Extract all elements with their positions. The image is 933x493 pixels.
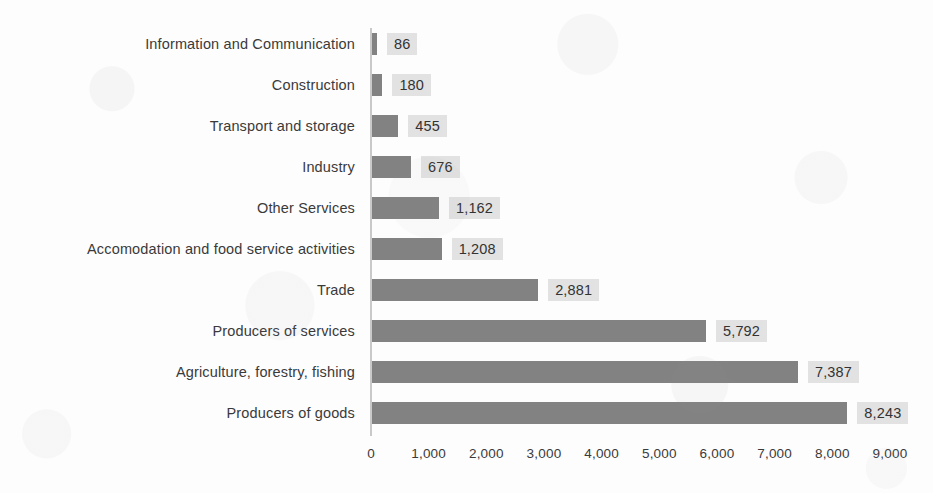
bar-value-label: 86	[387, 33, 417, 55]
bar	[372, 115, 398, 137]
category-label: Agriculture, forestry, fishing	[176, 364, 355, 380]
bar-row: Trade2,881	[0, 279, 933, 301]
category-label: Industry	[302, 159, 355, 175]
bar	[372, 156, 411, 178]
x-axis-tick-label: 4,000	[584, 446, 619, 461]
bar	[372, 279, 538, 301]
category-label: Information and Communication	[145, 36, 355, 52]
bar	[372, 197, 439, 219]
x-axis-tick-label: 8,000	[815, 446, 850, 461]
bar	[372, 320, 706, 342]
bar	[372, 402, 847, 424]
bar-row: Producers of services5,792	[0, 320, 933, 342]
bar-row: Other Services1,162	[0, 197, 933, 219]
bar-row: Agriculture, forestry, fishing7,387	[0, 361, 933, 383]
bar-value-label: 1,162	[449, 197, 500, 219]
bar	[372, 74, 382, 96]
category-label: Producers of goods	[227, 405, 355, 421]
category-label: Accomodation and food service activities	[87, 241, 355, 257]
x-axis-tick-label: 0	[367, 446, 375, 461]
x-axis-tick-label: 5,000	[642, 446, 677, 461]
bar	[372, 33, 377, 55]
x-axis-tick-label: 2,000	[469, 446, 504, 461]
bar-row: Producers of goods8,243	[0, 402, 933, 424]
bar-value-label: 180	[392, 74, 431, 96]
horizontal-bar-chart: Information and Communication86Construct…	[0, 0, 933, 493]
category-label: Other Services	[257, 200, 355, 216]
bar-value-label: 2,881	[548, 279, 599, 301]
category-label: Trade	[317, 282, 355, 298]
bar-row: Accomodation and food service activities…	[0, 238, 933, 260]
bar-row: Information and Communication86	[0, 33, 933, 55]
bar-value-label: 7,387	[808, 361, 859, 383]
x-axis-tick-label: 1,000	[411, 446, 446, 461]
bar-value-label: 676	[421, 156, 460, 178]
x-axis-tick-label: 6,000	[700, 446, 735, 461]
category-label: Transport and storage	[210, 118, 355, 134]
category-label: Producers of services	[212, 323, 355, 339]
bar-row: Construction180	[0, 74, 933, 96]
bar-value-label: 8,243	[857, 402, 908, 424]
category-label: Construction	[272, 77, 355, 93]
bar-value-label: 5,792	[716, 320, 767, 342]
x-axis-tick-label: 9,000	[873, 446, 908, 461]
x-axis-tick-label: 7,000	[757, 446, 792, 461]
bar	[372, 238, 442, 260]
bar-row: Industry676	[0, 156, 933, 178]
x-axis-tick-label: 3,000	[527, 446, 562, 461]
bar	[372, 361, 798, 383]
bar-value-label: 1,208	[452, 238, 503, 260]
bar-value-label: 455	[408, 115, 447, 137]
bar-row: Transport and storage455	[0, 115, 933, 137]
